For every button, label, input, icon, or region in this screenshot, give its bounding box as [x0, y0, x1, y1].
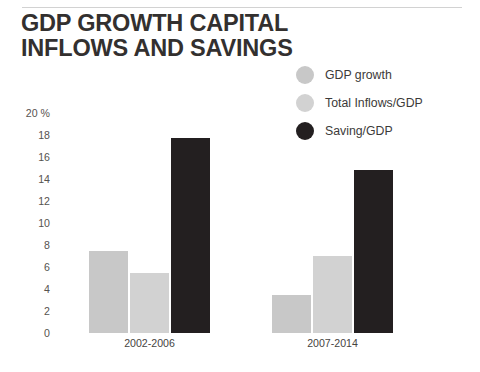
x-axis-category-label: 2007-2014: [307, 337, 358, 349]
bar-total-inflows-gdp-2002-2006: [130, 273, 169, 334]
bar-total-inflows-gdp-2007-2014: [313, 256, 352, 333]
bar-saving-gdp-2002-2006: [171, 138, 210, 333]
bar-gdp-growth-2002-2006: [89, 251, 128, 334]
bar-saving-gdp-2007-2014: [354, 170, 393, 333]
chart-page: GDP GROWTH CAPITAL INFLOWS AND SAVINGS G…: [0, 0, 480, 372]
x-axis-category-label: 2002-2006: [124, 337, 175, 349]
chart-plot-area: 20 %181614121086420 2002-20062007-2014: [0, 0, 480, 372]
bars-layer: 2002-20062007-2014: [0, 0, 480, 372]
bar-gdp-growth-2007-2014: [272, 295, 311, 334]
